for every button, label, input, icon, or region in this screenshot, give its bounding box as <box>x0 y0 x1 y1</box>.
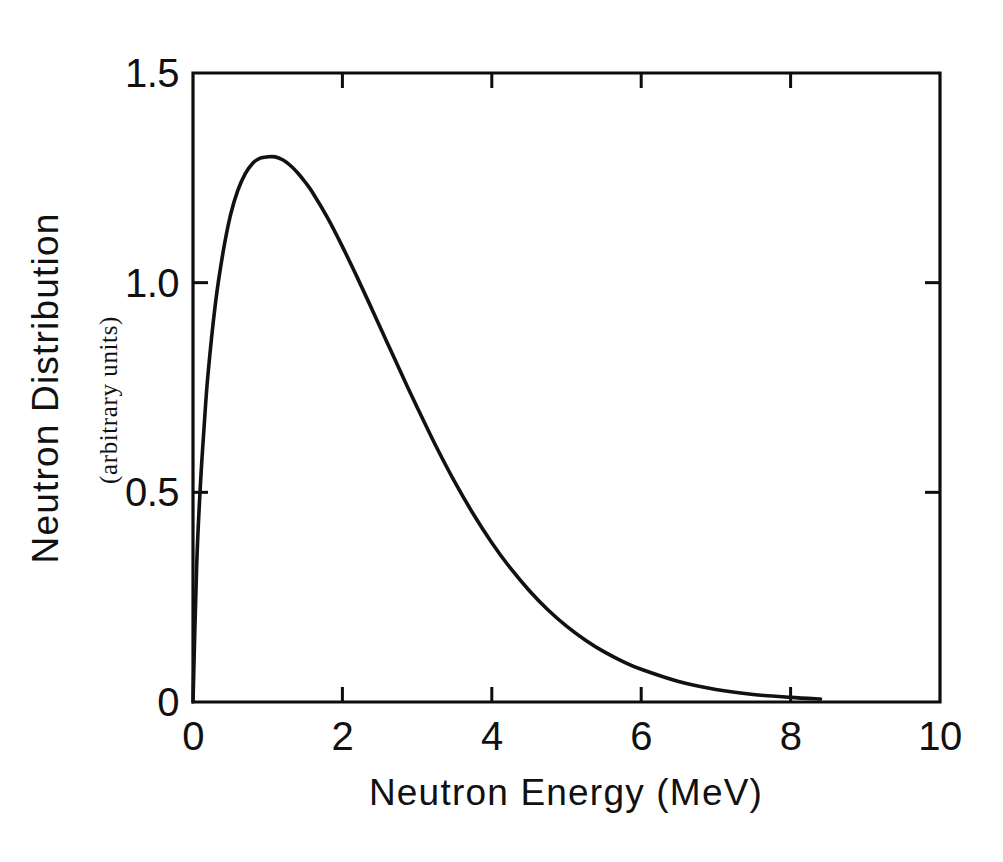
neutron-energy-spectrum-chart: 0246810 00.51.01.5 Neutron Energy (MeV) … <box>0 0 1003 862</box>
x-tick-label-8: 8 <box>780 714 802 758</box>
x-tick-label-6: 6 <box>630 714 652 758</box>
x-tick-label-10: 10 <box>918 714 962 758</box>
x-tick-label-2: 2 <box>332 714 354 758</box>
y-tick-label-0.5: 0.5 <box>125 470 179 514</box>
y-tick-label-1.5: 1.5 <box>125 51 179 95</box>
y-axis-title: Neutron Distribution <box>25 213 66 564</box>
x-axis-title: Neutron Energy (MeV) <box>369 772 763 813</box>
x-tick-label-0: 0 <box>182 714 204 758</box>
y-tick-label-0: 0 <box>157 680 179 724</box>
x-tick-label-4: 4 <box>481 714 503 758</box>
y-axis-subtitle: (arbitrary units) <box>95 316 123 484</box>
y-tick-label-1: 1.0 <box>125 261 179 305</box>
figure-container: 0246810 00.51.01.5 Neutron Energy (MeV) … <box>0 0 1003 862</box>
